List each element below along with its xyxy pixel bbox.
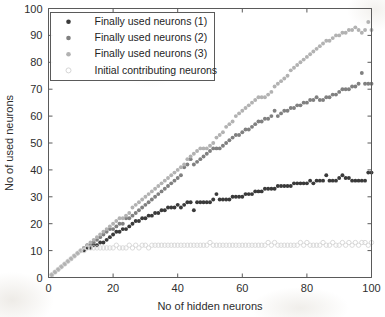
x-tick-label: 20	[107, 282, 119, 294]
series-4-points	[50, 240, 374, 277]
legend-marker-3	[66, 52, 71, 57]
y-tick-label: 100	[24, 3, 42, 15]
x-tick-label: 80	[301, 282, 313, 294]
y-tick-label: 10	[30, 245, 42, 257]
legend-label-1: Finally used neurons (1)	[95, 15, 208, 27]
legend-label-3: Finally used neurons (3)	[95, 47, 208, 59]
legend-marker-1	[66, 20, 71, 25]
x-tick-label: 60	[236, 282, 248, 294]
y-tick-label: 70	[30, 83, 42, 95]
y-tick-label: 30	[30, 191, 42, 203]
x-tick-label: 40	[172, 282, 184, 294]
x-axis-label: No of hidden neurons	[157, 300, 263, 312]
legend-label-4: Initial contributing neurons	[95, 64, 218, 76]
legend-label-2: Finally used neurons (2)	[95, 31, 208, 43]
x-tick-label: 100	[362, 282, 380, 294]
y-axis-label: No of used neurons	[3, 94, 15, 191]
series-1-points	[50, 171, 374, 277]
y-tick-label: 0	[36, 272, 42, 284]
y-tick-label: 60	[30, 110, 42, 122]
x-tick-label: 0	[45, 282, 51, 294]
legend: Finally used neurons (1)Finally used neu…	[51, 13, 218, 81]
y-tick-label: 80	[30, 56, 42, 68]
y-tick-label: 20	[30, 218, 42, 230]
y-tick-label: 50	[30, 137, 42, 149]
y-tick-labels: 0102030405060708090100	[24, 3, 42, 284]
figure-canvas: 0204060801000102030405060708090100No of …	[0, 0, 385, 317]
y-tick-label: 40	[30, 164, 42, 176]
x-tick-labels: 020406080100	[45, 282, 380, 294]
legend-marker-2	[66, 36, 71, 41]
scatter-plot: 0204060801000102030405060708090100No of …	[0, 0, 385, 317]
y-tick-label: 90	[30, 29, 42, 41]
